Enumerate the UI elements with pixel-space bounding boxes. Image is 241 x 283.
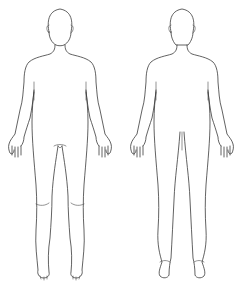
front-left-leg bbox=[32, 90, 58, 278]
front-body-left bbox=[9, 45, 55, 157]
front-body-figure bbox=[9, 9, 112, 280]
back-body-right bbox=[187, 45, 233, 157]
front-body-right bbox=[65, 45, 111, 157]
back-body-figure bbox=[131, 9, 234, 278]
back-right-leg bbox=[184, 90, 210, 278]
back-left-leg bbox=[154, 90, 180, 278]
back-body-left bbox=[131, 45, 177, 157]
body-outlines bbox=[0, 0, 241, 283]
front-right-leg bbox=[62, 90, 88, 278]
back-head bbox=[170, 9, 194, 45]
body-diagram bbox=[0, 0, 241, 283]
front-head bbox=[48, 9, 72, 46]
